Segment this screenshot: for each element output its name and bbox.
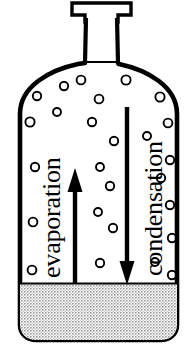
liquid: [18, 283, 180, 343]
diagram-canvas: evaporation condensation: [0, 0, 194, 346]
liquid-fill: [18, 283, 180, 343]
bottle-neck: [85, 18, 118, 63]
bottle-diagram: evaporation condensation: [0, 0, 194, 346]
evaporation-label: evaporation: [37, 157, 66, 278]
neck-outline: [85, 18, 118, 63]
condensation-label: condensation: [139, 141, 168, 276]
